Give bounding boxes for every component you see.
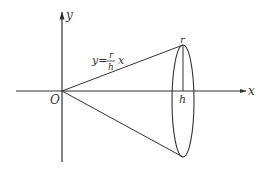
origin-label: O bbox=[50, 93, 60, 107]
x-axis-label: x bbox=[248, 84, 255, 98]
equation-variable: x bbox=[118, 54, 125, 67]
lower-generator-line bbox=[62, 91, 183, 157]
cone-diagram: x y O r h y= r h x bbox=[0, 0, 261, 172]
equation-denominator: h bbox=[108, 62, 114, 72]
equation-numerator: r bbox=[109, 50, 114, 60]
radius-label: r bbox=[180, 34, 186, 45]
equation-lhs: y= bbox=[91, 54, 107, 67]
y-axis-label: y bbox=[65, 8, 73, 22]
height-label: h bbox=[179, 93, 186, 106]
upper-generator-line bbox=[62, 45, 183, 91]
